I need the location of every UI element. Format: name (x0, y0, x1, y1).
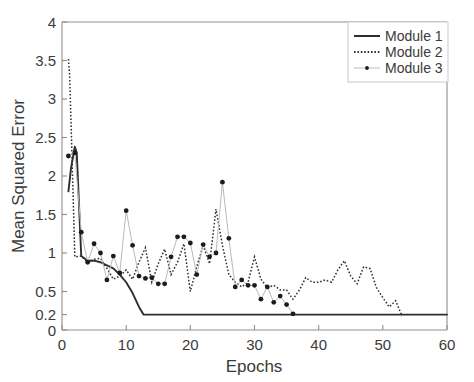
y-tick-label: 1 (48, 244, 56, 261)
data-point-marker (207, 254, 212, 259)
data-point-marker (226, 236, 231, 241)
data-point-marker (143, 276, 148, 281)
legend-label-module-2: Module 2 (385, 44, 443, 60)
y-axis-title: Mean Squared Error (9, 99, 28, 253)
data-point-marker (111, 254, 116, 259)
y-tick-label: 0.2 (35, 306, 56, 323)
x-tick-label: 50 (374, 336, 391, 353)
data-point-marker (271, 300, 276, 305)
data-point-marker (169, 254, 174, 259)
y-tick-label: 4 (48, 14, 56, 31)
x-tick-label: 20 (182, 336, 199, 353)
x-tick-label: 10 (118, 336, 135, 353)
data-point-marker (98, 251, 103, 256)
data-point-marker (92, 241, 97, 246)
data-point-marker (156, 281, 161, 286)
y-tick-label: 1.5 (35, 206, 56, 223)
data-point-marker (265, 284, 270, 289)
data-point-marker (85, 260, 90, 265)
x-tick-label: 30 (246, 336, 263, 353)
x-tick-label: 60 (439, 336, 456, 353)
x-tick-label: 0 (58, 336, 66, 353)
x-axis-title: Epochs (226, 357, 283, 376)
data-point-marker (130, 243, 135, 248)
legend-label-module-3: Module 3 (385, 60, 443, 76)
data-point-marker (72, 151, 77, 156)
data-point-marker (233, 284, 238, 289)
data-point-marker (162, 281, 167, 286)
data-point-marker (284, 302, 289, 307)
y-tick-label: 0 (48, 322, 56, 339)
y-tick-label: 2 (48, 167, 56, 184)
data-point-marker (259, 297, 264, 302)
data-point-marker (137, 274, 142, 279)
legend-swatch-module-3-marker-icon (365, 66, 369, 70)
data-point-marker (117, 271, 122, 276)
data-point-marker (188, 241, 193, 246)
chart-figure: 0 0.2 0.5 1 1.5 2 2.5 3 3.5 4 0 10 20 30… (0, 0, 474, 382)
data-point-marker (182, 234, 187, 239)
data-point-marker (246, 283, 251, 288)
data-point-marker (220, 180, 225, 185)
data-point-marker (175, 234, 180, 239)
data-point-marker (252, 283, 257, 288)
data-point-marker (124, 208, 129, 213)
data-point-marker (194, 272, 199, 277)
data-point-marker (291, 311, 296, 316)
data-point-marker (214, 251, 219, 256)
data-point-marker (239, 278, 244, 283)
mse-vs-epochs-chart: 0 0.2 0.5 1 1.5 2 2.5 3 3.5 4 0 10 20 30… (0, 0, 474, 382)
data-point-marker (278, 294, 283, 299)
data-point-marker (105, 278, 110, 283)
x-tick-labels: 0 10 20 30 40 50 60 (58, 336, 456, 353)
y-tick-label: 3.5 (35, 52, 56, 69)
data-point-marker (66, 154, 71, 159)
y-tick-labels: 0 0.2 0.5 1 1.5 2 2.5 3 3.5 4 (35, 14, 56, 339)
chart-legend: Module 1 Module 2 Module 3 (348, 22, 448, 82)
data-point-marker (149, 275, 154, 280)
y-tick-label: 2.5 (35, 129, 56, 146)
data-point-marker (201, 242, 206, 247)
y-tick-label: 3 (48, 90, 56, 107)
legend-label-module-1: Module 1 (385, 28, 443, 44)
y-tick-label: 0.5 (35, 283, 56, 300)
x-tick-label: 40 (310, 336, 327, 353)
data-point-marker (79, 230, 84, 235)
